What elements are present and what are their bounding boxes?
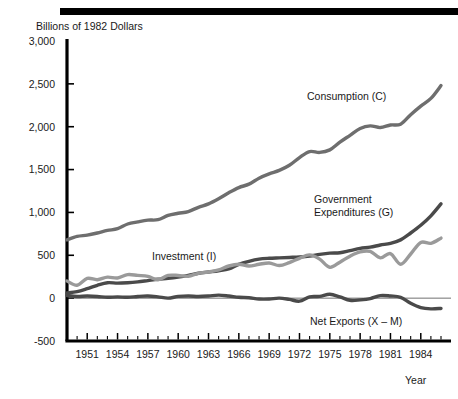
x-tick-label: 1978	[348, 348, 372, 360]
government-label-line2: Expenditures (G)	[314, 206, 393, 218]
x-tick-label: 1975	[318, 348, 342, 360]
y-tick-label: 1,000	[29, 206, 55, 218]
y-tick-label: 2,000	[29, 121, 55, 133]
x-tick-label: 1972	[288, 348, 312, 360]
x-tick-label: 1966	[227, 348, 251, 360]
net-exports-label: Net Exports (X – M)	[310, 315, 402, 327]
series-curve-group	[67, 86, 441, 309]
investment-label: Investment (I)	[152, 250, 216, 262]
x-tick-label: 1954	[106, 348, 130, 360]
y-tick-label: -500	[34, 335, 55, 347]
x-tick-label-group: 1951195419571960196319661969197219751978…	[76, 348, 433, 360]
y-tick-label: 500	[37, 249, 55, 261]
y-tick-label: 0	[49, 292, 55, 304]
y-tick-label: 2,500	[29, 78, 55, 90]
series-line	[67, 294, 441, 309]
x-tick-label: 1981	[379, 348, 403, 360]
y-tick-label: 1,500	[29, 163, 55, 175]
y-tick-label: 3,000	[29, 35, 55, 47]
x-tick-label: 1963	[197, 348, 221, 360]
consumption-label: Consumption (C)	[307, 90, 386, 102]
x-tick-label: 1984	[409, 348, 433, 360]
x-tick-label: 1969	[257, 348, 281, 360]
x-tick-label: 1951	[76, 348, 100, 360]
chart-figure: Billions of 1982 Dollars Year 3,0002,500…	[0, 0, 458, 399]
x-tick-label: 1960	[167, 348, 191, 360]
y-tick-label-group: 3,0002,5002,0001,5001,0005000-500	[29, 35, 55, 347]
line-chart-plot: 3,0002,5002,0001,5001,0005000-500 195119…	[0, 0, 458, 399]
x-tick-mark-group	[77, 333, 441, 340]
government-label-line1: Government	[314, 193, 372, 205]
x-tick-label: 1957	[136, 348, 160, 360]
